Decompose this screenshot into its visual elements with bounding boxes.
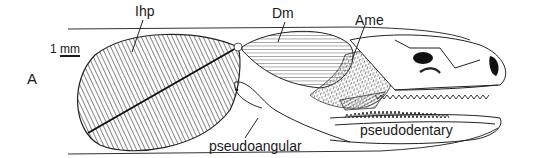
orbit-fill: [413, 52, 433, 64]
scale-bar-unit: mm: [60, 42, 80, 56]
label-pseudoangular: pseudoangular: [209, 139, 302, 153]
pseudoangular-leader: [245, 118, 258, 138]
scale-bar: 1 mm: [50, 43, 80, 55]
scale-bar-number: 1: [50, 42, 57, 56]
panel-label: A: [27, 71, 37, 86]
tendon-node: [234, 43, 242, 51]
jaw-musculature-diagram: [0, 0, 534, 158]
label-pseudodentary: pseudodentary: [360, 123, 453, 137]
label-ame: Ame: [355, 13, 384, 27]
label-ihp: Ihp: [135, 4, 154, 18]
label-dm: Dm: [272, 6, 294, 20]
ihp-muscle: [78, 34, 240, 150]
